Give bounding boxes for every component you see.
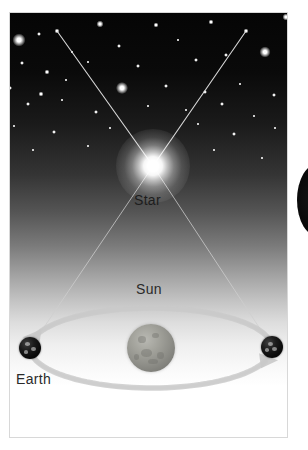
earth-landmass: [272, 347, 277, 351]
background-star: [185, 109, 188, 112]
background-star: [109, 127, 112, 130]
background-star: [220, 102, 224, 106]
background-star: [65, 79, 68, 82]
background-star: [71, 51, 74, 54]
background-star: [203, 90, 207, 94]
background-star: [239, 83, 242, 86]
label-sun: Sun: [136, 281, 162, 297]
background-star: [260, 47, 271, 58]
background-star: [116, 82, 128, 94]
background-star: [52, 130, 56, 134]
sky-panel: Star Sun Earth: [10, 13, 287, 437]
background-star: [261, 157, 264, 160]
background-star: [253, 115, 256, 118]
background-star: [32, 149, 35, 152]
background-star: [244, 29, 249, 34]
background-star: [213, 149, 216, 152]
background-star: [13, 125, 16, 128]
background-star: [39, 92, 44, 97]
background-star: [117, 44, 121, 48]
earth-landmass: [31, 347, 36, 351]
background-star: [177, 39, 180, 42]
sun-mottle: [141, 349, 152, 357]
background-star: [26, 102, 30, 106]
background-starfield: [10, 13, 287, 437]
earth-landmass: [25, 342, 31, 346]
adjacent-figure-sliver: [297, 163, 308, 237]
sun-sphere: [127, 324, 175, 372]
background-star: [224, 53, 228, 57]
background-star: [87, 145, 90, 148]
adjacent-sphere-edge: [297, 163, 308, 237]
label-star: Star: [134, 192, 161, 208]
background-star: [20, 61, 24, 65]
background-star: [283, 14, 288, 21]
sun-mottle: [138, 336, 147, 343]
background-star: [147, 105, 150, 108]
background-star: [194, 58, 198, 62]
background-star: [55, 29, 60, 34]
background-star: [97, 21, 104, 28]
background-star: [232, 132, 236, 136]
label-earth: Earth: [16, 371, 51, 387]
background-star: [154, 23, 159, 28]
background-star: [272, 93, 276, 97]
earth-landmass: [268, 342, 273, 346]
background-star: [209, 20, 214, 25]
background-star: [94, 110, 98, 114]
earth-landmass: [265, 348, 269, 352]
background-star: [61, 99, 64, 102]
background-star: [87, 61, 90, 64]
sun-mottle: [134, 354, 140, 360]
sun-mottle: [148, 359, 158, 365]
parallax-figure: Star Sun Earth: [0, 0, 308, 450]
earth-landmass: [24, 350, 28, 354]
background-star: [136, 64, 140, 68]
earth-sphere-position-2: [261, 336, 283, 358]
sun-mottle: [152, 333, 159, 339]
background-star: [274, 127, 277, 130]
background-star: [37, 32, 41, 36]
background-star: [10, 86, 12, 90]
sun-mottle: [157, 352, 165, 359]
background-star: [45, 70, 50, 75]
background-star: [197, 123, 200, 126]
background-star: [13, 34, 26, 47]
earth-sphere-position-1: [19, 337, 41, 359]
background-star: [164, 84, 168, 88]
